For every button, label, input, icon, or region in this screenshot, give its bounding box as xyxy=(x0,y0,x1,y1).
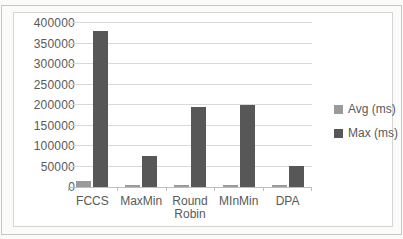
bar-avg-ms-maxmin xyxy=(125,185,140,187)
legend: Avg (ms)Max (ms) xyxy=(334,103,398,139)
y-tick-label-350000: 350000 xyxy=(14,38,75,50)
y-tick-label-300000: 300000 xyxy=(14,58,75,70)
bar-max-ms-minmin xyxy=(240,105,255,187)
bar-max-ms-fccs xyxy=(93,31,108,187)
bar-max-ms-maxmin xyxy=(142,156,157,187)
legend-marker-max-ms xyxy=(334,129,343,138)
bar-avg-ms-dpa xyxy=(272,185,287,187)
x-category-label-maxmin: MaxMin xyxy=(117,195,166,208)
y-tick-label-150000: 150000 xyxy=(14,120,75,132)
x-axis: FCCSMaxMinRound RobinMInMinDPA xyxy=(68,195,312,225)
x-axis-tick xyxy=(117,188,118,191)
y-tick-label-400000: 400000 xyxy=(14,17,75,29)
bar-max-ms-round-robin xyxy=(191,107,206,187)
bar-group-minmin xyxy=(214,23,263,187)
bar-avg-ms-minmin xyxy=(223,185,238,187)
y-tick-label-0: 0 xyxy=(14,181,75,193)
x-axis-tick xyxy=(263,188,264,191)
plot-area xyxy=(68,23,312,188)
bar-avg-ms-round-robin xyxy=(174,185,189,187)
bar-avg-ms-fccs xyxy=(76,181,91,187)
bar-group-fccs xyxy=(68,23,117,187)
y-tick-label-250000: 250000 xyxy=(14,79,75,91)
legend-marker-avg-ms xyxy=(334,105,343,114)
bar-max-ms-dpa xyxy=(289,166,304,187)
x-axis-tick xyxy=(214,188,215,191)
x-category-label-round-robin: Round Robin xyxy=(166,195,215,221)
bar-group-round-robin xyxy=(166,23,215,187)
bar-group-dpa xyxy=(263,23,312,187)
x-axis-tick xyxy=(68,188,69,191)
legend-entry-max-ms: Max (ms) xyxy=(334,127,398,139)
y-tick-label-100000: 100000 xyxy=(14,140,75,152)
x-axis-tick xyxy=(166,188,167,191)
y-tick-label-50000: 50000 xyxy=(14,161,75,173)
chart-frame: 0500001000001500002000002500003000003500… xyxy=(13,12,393,227)
y-tick-label-200000: 200000 xyxy=(14,99,75,111)
bar-group-maxmin xyxy=(117,23,166,187)
x-category-label-minmin: MInMin xyxy=(214,195,263,208)
x-category-label-fccs: FCCS xyxy=(68,195,117,208)
y-axis: 0500001000001500002000002500003000003500… xyxy=(14,23,75,188)
legend-label-avg-ms: Avg (ms) xyxy=(348,103,396,115)
figure-background: 0500001000001500002000002500003000003500… xyxy=(0,0,403,239)
legend-label-max-ms: Max (ms) xyxy=(348,127,398,139)
legend-entry-avg-ms: Avg (ms) xyxy=(334,103,398,115)
x-category-label-dpa: DPA xyxy=(263,195,312,208)
x-axis-tick xyxy=(311,188,312,191)
